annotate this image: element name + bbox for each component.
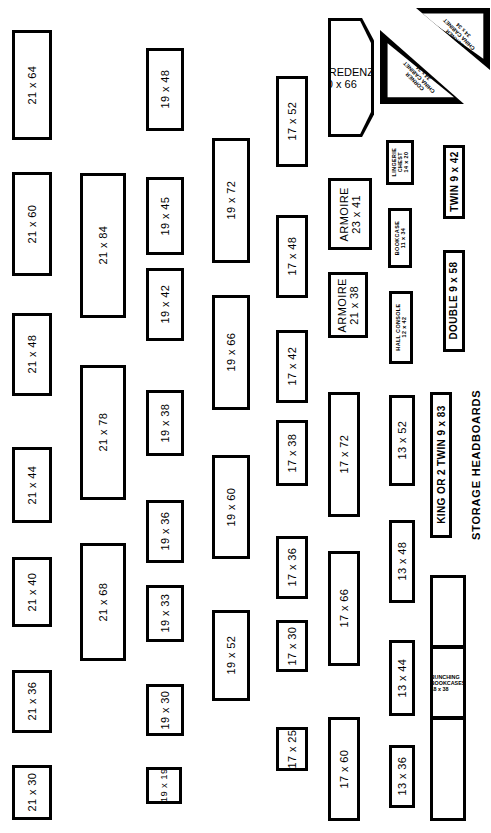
armoire-name: ARMOIRE xyxy=(338,187,350,241)
bunching-bookcase-size: 18 x 38 xyxy=(431,686,449,692)
shape-label: 19 x 36 xyxy=(159,512,171,551)
template-shape-21x44[interactable]: 21 x 44 xyxy=(12,447,52,523)
template-shape-lingerie-chest[interactable]: LINGERIE CHEST 14 x 20 xyxy=(386,140,414,185)
shape-label: 21 x 60 xyxy=(26,205,38,244)
shape-label: DOUBLE 9 x 58 xyxy=(448,262,459,340)
shape-label: 13 x 52 xyxy=(396,421,408,460)
template-shape-21x40[interactable]: 21 x 40 xyxy=(12,557,52,627)
shape-label: 21 x 30 xyxy=(26,773,38,812)
template-shape-corner-china-cabinet-bottom[interactable]: CORNER CHINA CABINET 34 x 34 xyxy=(380,30,464,104)
template-shape-21x48[interactable]: 21 x 48 xyxy=(12,313,52,396)
template-shape-17x25[interactable]: 17 x 25 xyxy=(276,727,308,771)
template-shape-king-headboard[interactable]: KING OR 2 TWIN 9 x 83 xyxy=(430,392,452,538)
shape-label: 17 x 60 xyxy=(338,750,350,789)
template-shape-13x52[interactable]: 13 x 52 xyxy=(389,395,415,486)
template-shape-17x52[interactable]: 17 x 52 xyxy=(276,76,308,167)
template-shape-credenza[interactable]: CREDENZA 20 x 66 xyxy=(328,18,374,137)
shape-label: 19 x 66 xyxy=(225,333,237,372)
template-shape-armoire-21x38[interactable]: ARMOIRE 21 x 38 xyxy=(328,272,368,338)
shape-label: HALL CONSOLE 12 x 42 xyxy=(395,304,407,351)
shape-label: BOOKCASE 11 x 34 xyxy=(394,221,406,255)
shape-label: 21 x 78 xyxy=(97,413,109,452)
template-shape-19x66[interactable]: 19 x 66 xyxy=(212,295,250,410)
template-shape-19x48[interactable]: 19 x 48 xyxy=(146,48,184,131)
shape-label: 19 x 19 xyxy=(159,769,170,803)
template-shape-21x64[interactable]: 21 x 64 xyxy=(12,30,52,140)
armoire-size: 21 x 38 xyxy=(348,286,360,325)
shape-label: 17 x 52 xyxy=(286,102,298,141)
shape-label: 21 x 68 xyxy=(97,583,109,622)
shape-label: 17 x 66 xyxy=(338,589,350,628)
template-shape-bookcase[interactable]: BOOKCASE 11 x 34 xyxy=(388,208,412,268)
template-shape-13x44[interactable]: 13 x 44 xyxy=(389,640,415,716)
shape-label: 13 x 36 xyxy=(396,757,408,796)
template-shape-21x84[interactable]: 21 x 84 xyxy=(80,173,126,318)
template-shape-17x72[interactable]: 17 x 72 xyxy=(328,392,360,517)
template-shape-19x36[interactable]: 19 x 36 xyxy=(146,500,184,563)
template-shape-hall-console[interactable]: HALL CONSOLE 12 x 42 xyxy=(389,291,413,364)
shape-label: 17 x 72 xyxy=(338,435,350,474)
template-shape-17x42[interactable]: 17 x 42 xyxy=(276,330,308,403)
template-shape-21x60[interactable]: 21 x 60 xyxy=(12,172,52,276)
template-shape-21x78[interactable]: 21 x 78 xyxy=(80,365,126,500)
template-shape-bunching-bookcase-top[interactable] xyxy=(430,575,466,648)
template-shape-21x68[interactable]: 21 x 68 xyxy=(80,543,126,661)
template-shape-corner-china-cabinet-top[interactable]: CORNER CHINA CABINET 34 x 34 xyxy=(416,8,490,70)
template-shape-21x36[interactable]: 21 x 36 xyxy=(12,670,52,733)
template-shape-19x42[interactable]: 19 x 42 xyxy=(146,268,184,341)
template-shape-19x52[interactable]: 19 x 52 xyxy=(212,610,250,701)
shape-label: LINGERIE CHEST 14 x 20 xyxy=(391,148,409,177)
template-shape-bunching-bookcase-middle[interactable]: BUNCHING BOOKCASES 18 x 38 xyxy=(430,646,466,719)
shape-label: 17 x 48 xyxy=(286,237,298,276)
template-shape-19x33[interactable]: 19 x 33 xyxy=(146,585,184,642)
template-shape-17x36[interactable]: 17 x 36 xyxy=(276,536,308,599)
shape-label: KING OR 2 TWIN 9 x 83 xyxy=(435,406,446,524)
template-shape-13x36[interactable]: 13 x 36 xyxy=(389,745,415,808)
template-shape-armoire-23x41[interactable]: ARMOIRE 23 x 41 xyxy=(328,178,372,250)
armoire-name: ARMOIRE xyxy=(336,278,348,332)
template-shape-19x30[interactable]: 19 x 30 xyxy=(146,684,184,736)
furniture-template-sheet: 21 x 64 21 x 60 21 x 48 21 x 44 21 x 40 … xyxy=(0,0,491,833)
credenza-name: CREDENZA xyxy=(321,66,382,78)
shape-label: ARMOIRE 21 x 38 xyxy=(336,278,361,332)
shape-label: 19 x 30 xyxy=(159,691,171,730)
template-shape-21x30[interactable]: 21 x 30 xyxy=(12,765,52,820)
shape-label: 17 x 38 xyxy=(286,434,298,473)
shape-label: 17 x 42 xyxy=(286,347,298,386)
shape-label: 13 x 48 xyxy=(396,542,408,581)
lingerie-chest-name-1: LINGERIE xyxy=(391,148,397,177)
template-shape-double-headboard[interactable]: DOUBLE 9 x 58 xyxy=(443,250,465,352)
shape-label: 19 x 38 xyxy=(159,404,171,443)
template-shape-13x48[interactable]: 13 x 48 xyxy=(389,520,415,603)
storage-headboards-label: STORAGE HEADBOARDS xyxy=(470,390,482,541)
shape-label: 17 x 36 xyxy=(286,548,298,587)
shape-label: 21 x 84 xyxy=(97,226,109,265)
credenza-inner: CREDENZA 20 x 66 xyxy=(331,21,371,134)
template-shape-17x66[interactable]: 17 x 66 xyxy=(328,551,360,666)
credenza-size: 20 x 66 xyxy=(321,78,357,90)
template-shape-19x45[interactable]: 19 x 45 xyxy=(146,177,184,255)
shape-label: 19 x 33 xyxy=(159,594,171,633)
template-shape-bunching-bookcase-bottom[interactable] xyxy=(430,717,466,821)
template-shape-17x30[interactable]: 17 x 30 xyxy=(276,620,308,672)
shape-label: 17 x 30 xyxy=(286,627,298,666)
shape-label: 17 x 25 xyxy=(286,730,298,769)
shape-label: 19 x 42 xyxy=(159,285,171,324)
shape-label: 19 x 48 xyxy=(159,70,171,109)
lingerie-chest-size: 14 x 20 xyxy=(403,152,409,173)
lingerie-chest-name-2: CHEST xyxy=(397,152,403,172)
bookcase-name: BOOKCASE xyxy=(394,221,400,255)
template-shape-19x19[interactable]: 19 x 19 xyxy=(146,767,182,804)
shape-label: 21 x 40 xyxy=(26,573,38,612)
template-shape-19x38[interactable]: 19 x 38 xyxy=(146,390,184,456)
template-shape-17x48[interactable]: 17 x 48 xyxy=(276,215,308,298)
template-shape-19x72[interactable]: 19 x 72 xyxy=(212,138,250,263)
shape-label: BUNCHING BOOKCASES 18 x 38 xyxy=(431,674,466,692)
bookcase-size: 11 x 34 xyxy=(400,228,406,249)
hall-console-size: 12 x 42 xyxy=(401,317,407,338)
template-shape-twin-headboard[interactable]: TWIN 9 x 42 xyxy=(443,145,465,219)
template-shape-17x60[interactable]: 17 x 60 xyxy=(328,717,360,821)
shape-label: CREDENZA 20 x 66 xyxy=(321,66,382,90)
template-shape-19x60[interactable]: 19 x 60 xyxy=(212,455,250,559)
template-shape-17x38[interactable]: 17 x 38 xyxy=(276,420,308,486)
